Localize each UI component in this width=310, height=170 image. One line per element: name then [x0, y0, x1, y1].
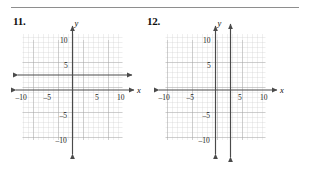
- y-tick-neg5-11: –5: [59, 111, 68, 120]
- problem-11: 11.: [8, 12, 156, 162]
- y-tick-5-12: 5: [207, 61, 211, 70]
- coordinate-plane-12: y x –10 –5 5 10 10 5 –5 –10: [142, 12, 290, 162]
- x-tick-neg5-12: –5: [186, 93, 195, 102]
- graph-svg-11: y x –10 –5 5 10 10 5 –5 –10: [8, 12, 156, 162]
- x-tick-10-12: 10: [260, 93, 268, 102]
- y-tick-10-11: 10: [60, 36, 68, 45]
- top-divider-rule: [11, 7, 299, 8]
- x-tick-5-11: 5: [95, 93, 99, 102]
- coordinate-plane-11: y x –10 –5 5 10 10 5 –5 –10: [8, 12, 156, 162]
- x-tick-10-11: 10: [117, 93, 125, 102]
- y-tick-10-12: 10: [203, 36, 211, 45]
- x-tick-neg5-11: –5: [43, 93, 52, 102]
- worksheet-page: 11.: [0, 0, 310, 170]
- x-tick-neg10-12: –10: [158, 93, 171, 102]
- y-tick-neg10-11: –10: [55, 136, 68, 145]
- graph-svg-12: y x –10 –5 5 10 10 5 –5 –10: [142, 12, 290, 162]
- problem-12: 12.: [142, 12, 290, 162]
- x-axis-label-11: x: [136, 85, 141, 95]
- x-axis-label-12: x: [279, 85, 284, 95]
- y-tick-5-11: 5: [64, 61, 68, 70]
- y-tick-neg5-12: –5: [202, 111, 211, 120]
- y-tick-neg10-12: –10: [198, 136, 211, 145]
- y-axis-label-12: y: [217, 18, 222, 28]
- x-tick-neg10-11: –10: [15, 93, 28, 102]
- x-tick-5-12: 5: [238, 93, 242, 102]
- y-axis-label-11: y: [74, 18, 79, 28]
